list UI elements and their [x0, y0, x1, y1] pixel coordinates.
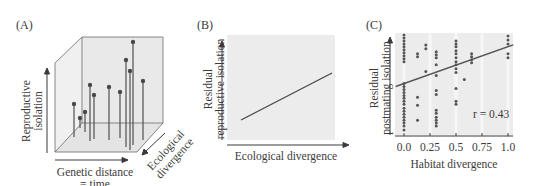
ylabel-line-1: Residual	[202, 69, 214, 109]
xlabel-line-2: = time	[80, 178, 110, 186]
scatter-point	[403, 129, 406, 132]
scatter-point	[435, 119, 438, 122]
scatter-point	[416, 104, 419, 107]
scatter-point	[403, 54, 406, 57]
scatter-point	[424, 43, 427, 46]
scatter-point	[403, 33, 406, 36]
panel-c: (C) Residual postmating isolation 0.0 0.…	[355, 0, 533, 186]
tick-label-0: 0.0	[392, 141, 416, 153]
scatter-point	[403, 122, 406, 125]
scatter-point	[435, 93, 438, 96]
scatter-point	[507, 38, 510, 41]
scatter-point	[403, 97, 406, 100]
scatter-point	[403, 60, 406, 63]
scatter-point	[455, 45, 458, 48]
scatter-point	[507, 42, 510, 45]
scatter-point	[424, 47, 427, 50]
scatter-point	[435, 56, 438, 59]
scatter-point	[455, 103, 458, 106]
scatter-point	[416, 119, 419, 122]
tick-label-4: 1.0	[496, 141, 520, 153]
scatter-point	[424, 70, 427, 73]
tick-label-1: 0.25	[418, 141, 442, 153]
scatter-point	[435, 74, 438, 77]
scatter-point	[403, 113, 406, 116]
ylabel-line-2: isolation	[32, 91, 44, 131]
scatter-point	[403, 48, 406, 51]
scatter-point	[455, 71, 458, 74]
scatter-point	[470, 61, 473, 64]
ylabel-line-2: reproductive isolation	[214, 39, 226, 140]
scatter-point	[455, 100, 458, 103]
panel-a: (A)	[0, 0, 175, 186]
scatter-point	[455, 42, 458, 45]
scatter-point	[403, 45, 406, 48]
ylabel-line-1: Residual	[368, 68, 380, 108]
scatter-point	[507, 34, 510, 37]
scatter-point	[403, 42, 406, 45]
panel-a-ylabel: Reproductive isolation	[20, 71, 44, 151]
tick-label-2: 0.5	[444, 141, 468, 153]
scatter-point	[455, 87, 458, 90]
panel-a-xlabel: Genetic distance = time	[55, 166, 135, 186]
scatter-point	[455, 39, 458, 42]
scatter-point	[470, 55, 473, 58]
scatter-point	[455, 56, 458, 59]
scatter-point	[416, 55, 419, 58]
scatter-point	[507, 52, 510, 55]
scatter-point	[455, 49, 458, 52]
scatter-point	[403, 107, 406, 110]
scatter-point	[403, 103, 406, 106]
scatter-point	[435, 125, 438, 128]
scatter-point	[455, 52, 458, 55]
ylabel-line-1: Reproductive	[20, 80, 32, 142]
panel-b: (B) Residual reproductive isolation Ecol…	[175, 0, 355, 186]
scatter-point	[507, 56, 510, 59]
ylabel-line-2: postmating isolation	[380, 41, 392, 135]
scatter-point	[403, 36, 406, 39]
scatter-point	[435, 89, 438, 92]
panel-c-ylabel: Residual postmating isolation	[368, 18, 392, 158]
xlabel-line-1: Genetic distance	[57, 166, 133, 178]
scatter-point	[416, 96, 419, 99]
panel-c-xlabel: Habitat divergence	[395, 158, 513, 170]
scatter-point	[403, 91, 406, 94]
scatter-point	[435, 63, 438, 66]
scatter-point	[455, 60, 458, 63]
scatter-point	[470, 52, 473, 55]
tick-label-3: 0.75	[470, 141, 494, 153]
scatter-point	[435, 122, 438, 125]
scatter-point	[416, 52, 419, 55]
scatter-point	[435, 109, 438, 112]
scatter-point	[455, 67, 458, 70]
scatter-point	[403, 88, 406, 91]
scatter-point	[435, 53, 438, 56]
scatter-point	[463, 78, 466, 81]
correlation-annotation: r = 0.43	[473, 108, 509, 120]
scatter-point	[403, 94, 406, 97]
scatter-point	[403, 116, 406, 119]
scatter-point	[403, 57, 406, 60]
scatter-point	[403, 85, 406, 88]
scatter-point	[403, 125, 406, 128]
scatter-point	[435, 112, 438, 115]
scatter-point	[403, 119, 406, 122]
scatter-point	[435, 116, 438, 119]
scatter-point	[403, 110, 406, 113]
panel-b-ylabel: Residual reproductive isolation	[202, 19, 226, 159]
scatter-point	[403, 39, 406, 42]
panel-b-xlabel: Ecological divergence	[227, 150, 345, 162]
scatter-point	[435, 50, 438, 53]
scatter-point	[403, 51, 406, 54]
scatter-point	[403, 100, 406, 103]
